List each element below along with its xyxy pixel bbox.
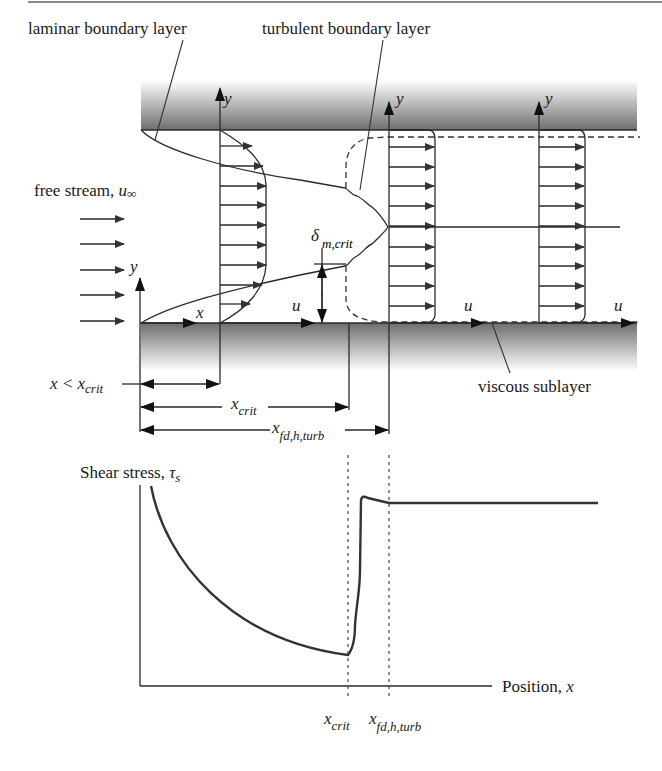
x-fd-label: xfd,h,turb [271, 418, 325, 443]
origin-axes: y x [128, 257, 204, 323]
u-label-1: u [292, 296, 301, 315]
delta-annotation: δ m,crit [311, 226, 353, 323]
turbulent-envelope-dashed [346, 137, 640, 322]
svg-text:y: y [128, 257, 138, 276]
free-stream-arrows [80, 219, 124, 321]
shear-stress-label: Shear stress, τs [80, 463, 180, 485]
x-crit-label: xcrit [230, 394, 257, 418]
position-label: Position, x [502, 677, 574, 696]
viscous-sublayer-label: viscous sublayer [478, 377, 591, 396]
svg-text:x: x [195, 303, 204, 322]
shear-stress-chart: Shear stress, τs Position, x xcrit xfd,h… [80, 455, 598, 734]
xcrit-axis-label: xcrit [323, 709, 350, 733]
xfd-axis-label: xfd,h,turb [368, 709, 422, 734]
svg-text:y: y [543, 89, 553, 108]
turbulent-bl-label: turbulent boundary layer [262, 19, 430, 38]
x-lt-xcrit-label: x < xcrit [49, 374, 104, 396]
laminar-bl-label: laminar boundary layer [28, 19, 187, 38]
free-stream-label: free stream, u∞ [34, 181, 136, 201]
u-label-3: u [614, 296, 623, 315]
u-label-2: u [464, 296, 473, 315]
bl-edge-top [141, 130, 388, 227]
svg-text:m,crit: m,crit [322, 236, 353, 251]
svg-text:y: y [222, 89, 232, 108]
svg-text:y: y [394, 89, 404, 108]
svg-text:δ: δ [311, 226, 320, 245]
shear-stress-curve [151, 486, 598, 655]
